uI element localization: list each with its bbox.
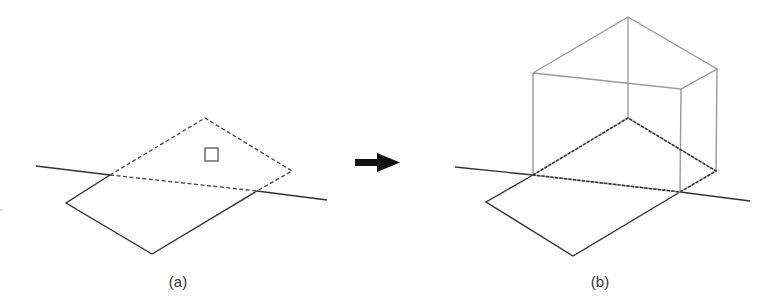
panel-b-ground-line-left	[455, 167, 533, 175]
panel-b	[455, 17, 750, 256]
right-arrow-icon	[355, 153, 400, 172]
panel-a-footprint-rear-dashed	[110, 118, 292, 191]
panel-a-square-marker-icon	[205, 148, 218, 161]
panel-b-ground-line-right	[680, 192, 750, 201]
panel-a-ground-line-right	[257, 191, 327, 200]
panel-a-ground-line-left	[36, 166, 110, 175]
panel-b-box-vertical-edges	[533, 17, 717, 192]
panel-b-caption: (b)	[591, 273, 609, 290]
panel-a-footprint-front	[66, 175, 257, 254]
panel-a-hidden-edge-dashed	[110, 175, 257, 191]
panel-b-box-base-dashed	[533, 118, 716, 192]
extrusion-diagram: (a) (b)	[0, 0, 775, 305]
panel-a-caption: (a)	[169, 273, 187, 290]
panel-b-box-vertical-edge	[716, 69, 717, 171]
panel-b-box-vertical-edge	[680, 89, 681, 192]
panel-b-box-top-face	[533, 17, 717, 89]
diagram-canvas	[0, 0, 775, 305]
panel-a	[36, 118, 327, 254]
panel-b-footprint-front	[486, 175, 680, 256]
